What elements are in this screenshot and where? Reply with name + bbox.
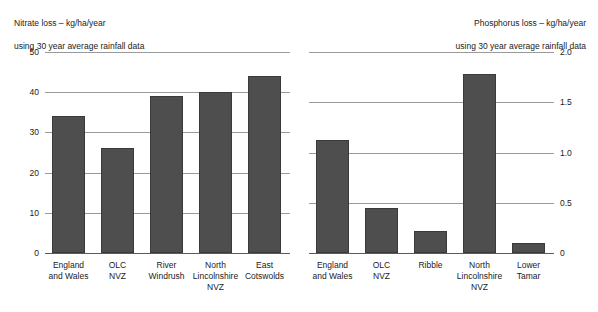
y-tick-label-20: 20 [11,168,39,178]
bar [414,231,447,253]
bar [101,148,134,253]
y-tick-label-1.5: 1.5 [560,97,588,107]
chart-panel-nitrate: Nitrate loss – kg/ha/year using 30 year … [0,0,299,312]
bar [52,116,85,253]
y-tick-label-40: 40 [11,87,39,97]
bar [248,76,281,253]
chart-panel-phosphorus: Phosphorus loss – kg/ha/year using 30 ye… [299,0,598,312]
y-tick-label-0.5: 0.5 [560,198,588,208]
gridline-0 [309,253,554,254]
bar [150,96,183,253]
bar [463,74,496,253]
plot-area-phosphorus: 00.51.01.52.0England and WalesOLC NVZRib… [299,0,598,312]
y-tick-label-1.0: 1.0 [560,148,588,158]
bar [199,92,232,253]
y-tick-label-2.0: 2.0 [560,47,588,57]
bar [365,208,398,253]
y-tick-label-10: 10 [11,208,39,218]
y-tick-label-0: 0 [11,248,39,258]
x-category-label: East Cotswolds [232,260,298,282]
bar [512,243,545,253]
y-tick-label-30: 30 [11,127,39,137]
y-tick-label-50: 50 [11,47,39,57]
bar [316,140,349,253]
y-tick-label-0: 0 [560,248,588,258]
gridline-50 [45,52,290,53]
gridline-1.5 [309,102,554,103]
figure-two-bar-charts: Nitrate loss – kg/ha/year using 30 year … [0,0,598,312]
plot-area-nitrate: 01020304050England and WalesOLC NVZRiver… [0,0,299,312]
gridline-2.0 [309,52,554,53]
x-category-label: Lower Tamar [496,260,562,282]
gridline-0 [45,253,290,254]
